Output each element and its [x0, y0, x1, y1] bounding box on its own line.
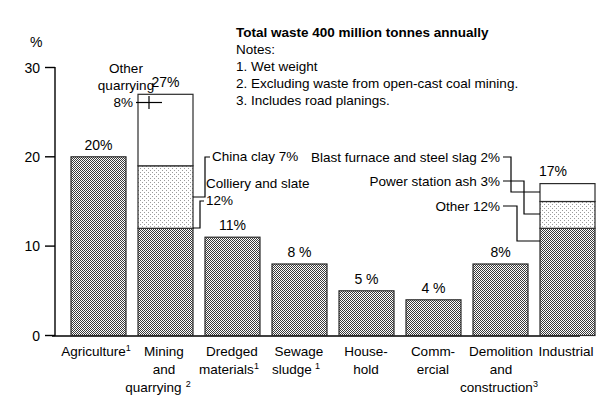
y-axis-unit-label: %	[30, 34, 42, 50]
bar-label-household: 5 %	[354, 271, 378, 287]
callout-other-industrial: Other 12%	[435, 199, 500, 214]
callout-colliery-line1: Colliery and slate	[206, 176, 310, 191]
cat-label-demolition-3: construction3	[460, 379, 538, 395]
cat-label-commercial-2: ercial	[417, 362, 449, 377]
note-item-1: 1. Wet weight	[236, 59, 318, 74]
bar-label-industrial: 17%	[539, 163, 567, 179]
cat-label-household-1: House-	[344, 344, 388, 359]
callout-other-quarrying-line2: quarrying	[98, 78, 154, 93]
bar-agriculture	[71, 157, 126, 336]
cat-label-demolition-1: Demolition	[469, 344, 533, 359]
cat-label-industrial: Industrial	[539, 344, 594, 359]
cat-label-mining-1: Mining	[144, 344, 184, 359]
segment-blast-furnace-slag	[540, 184, 595, 202]
callout-blast-furnace: Blast furnace and steel slag 2%	[311, 150, 500, 165]
segment-power-station-ash	[540, 202, 595, 229]
bar-label-sewage: 8 %	[287, 244, 311, 260]
callout-colliery-line2: 12%	[206, 193, 233, 208]
bar-label-dredged: 11%	[219, 217, 246, 233]
notes-heading: Notes:	[236, 42, 275, 57]
bar-demolition-and-construction	[473, 264, 528, 336]
waste-composition-chart: Total waste 400 million tonnes annually …	[0, 0, 603, 414]
segment-china-clay	[138, 166, 193, 229]
cat-label-mining-3: quarrying2	[125, 379, 190, 395]
callout-power-station-ash: Power station ash 3%	[369, 174, 500, 189]
cat-label-commercial-1: Comm-	[411, 344, 455, 359]
cat-label-demolition-2: and	[490, 362, 513, 377]
bar-mining-and-quarrying	[138, 94, 193, 335]
bar-label-agriculture: 20%	[84, 137, 112, 153]
segment-other-quarrying	[138, 94, 193, 166]
cat-label-agriculture: Agriculture1	[61, 343, 131, 359]
callout-other-quarrying-line1: Other	[109, 61, 143, 76]
bar-label-commercial: 4 %	[421, 280, 445, 296]
bar-label-demolition: 8%	[490, 244, 510, 260]
bar-label-mining: 27%	[151, 74, 179, 90]
bar-industrial	[540, 184, 595, 336]
callout-china-clay: China clay 7%	[212, 149, 298, 164]
segment-colliery-and-slate	[138, 228, 193, 335]
y-tick-label-0: 0	[32, 328, 40, 344]
bar-sewage-sludge	[272, 264, 327, 336]
y-tick-label-20: 20	[24, 149, 40, 165]
cat-label-sewage-1: Sewage	[275, 344, 324, 359]
callout-other-quarrying-value: 8%	[113, 95, 133, 110]
cat-label-household-2: hold	[353, 362, 379, 377]
cat-label-mining-2: and	[153, 362, 176, 377]
note-item-3: 3. Includes road planings.	[236, 93, 390, 108]
chart-title: Total waste 400 million tonnes annually	[236, 25, 489, 40]
y-tick-label-30: 30	[24, 60, 40, 76]
segment-other-industrial	[540, 228, 595, 335]
bar-commercial	[406, 300, 461, 336]
bar-household	[339, 291, 394, 336]
bar-dredged-materials	[205, 237, 260, 335]
y-tick-label-10: 10	[24, 238, 40, 254]
note-item-2: 2. Excluding waste from open-cast coal m…	[236, 76, 518, 91]
cat-label-dredged-2: materials1	[199, 361, 259, 377]
cat-label-dredged-1: Dredged	[206, 344, 258, 359]
